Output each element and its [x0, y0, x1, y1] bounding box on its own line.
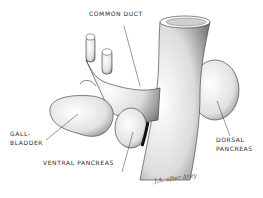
label-dorsal-2: PANCREAS — [216, 145, 253, 153]
label-common-duct: COMMON DUCT — [89, 10, 143, 18]
illustration-drawing — [0, 0, 263, 198]
gallbladder-shape — [50, 96, 113, 137]
label-ventral-pancreas: VENTRAL PANCREAS — [43, 159, 114, 167]
leader-common-duct — [124, 26, 140, 86]
label-gallbladder-1: GALL- — [10, 130, 31, 138]
label-gallbladder-2: BLADDER — [10, 139, 43, 147]
anatomical-illustration: COMMON DUCT GALL- BLADDER VENTRAL PANCRE… — [0, 0, 263, 198]
label-dorsal-1: DORSAL — [216, 136, 244, 144]
